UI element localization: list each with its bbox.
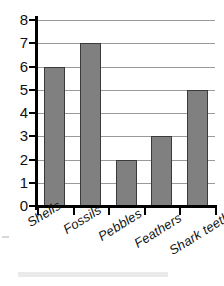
bar-chart: 012345678 ShellsFossilsPebblesFeathersSh… bbox=[0, 0, 224, 286]
x-axis-tick-label: Shells bbox=[25, 199, 63, 229]
x-axis-labels-group: ShellsFossilsPebblesFeathersShark teeth bbox=[0, 0, 224, 286]
